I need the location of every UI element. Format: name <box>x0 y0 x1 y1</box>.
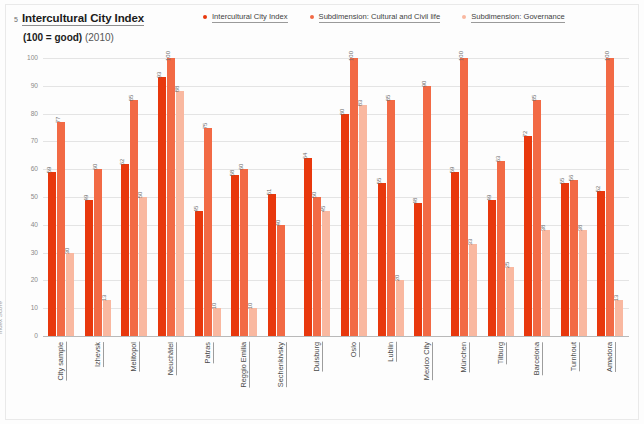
x-axis-label: Duisburg <box>312 342 323 372</box>
x-label-holder: Melitopol <box>129 342 130 420</box>
legend-item-cultural[interactable]: Subdimension: Cultural and Civil life <box>310 12 441 23</box>
x-axis-label: Barcelona <box>532 342 543 375</box>
x-axis-labels: City sampleIzhevskMelitopolNeuchâtelPatr… <box>43 340 629 420</box>
x-label-holder: Mexico City <box>422 342 423 420</box>
bar-value-label: 83 <box>357 100 363 107</box>
bar[interactable]: 50 <box>139 197 147 336</box>
bar[interactable]: 56 <box>570 180 578 336</box>
bar[interactable]: 40 <box>277 225 285 336</box>
bar[interactable]: 13 <box>615 300 623 336</box>
bar-value-label: 13 <box>613 295 619 302</box>
bar-value-label: 50 <box>137 192 143 199</box>
bar[interactable]: 38 <box>542 230 550 336</box>
legend-item-governance[interactable]: Subdimension: Governance <box>462 12 565 23</box>
x-label-holder: Turnhout <box>569 342 570 420</box>
bar[interactable]: 25 <box>506 267 514 337</box>
bar-value-label: 10 <box>211 303 217 310</box>
bar[interactable]: 38 <box>579 230 587 336</box>
bar[interactable]: 10 <box>213 308 221 336</box>
x-label-holder: Barcelona <box>532 342 533 420</box>
x-label-holder: City sample <box>56 342 57 420</box>
x-label-holder: Neuchâtel <box>166 342 167 420</box>
bar-value-label: 45 <box>320 206 326 213</box>
bar-value-label: 48 <box>412 197 418 204</box>
bar[interactable]: 83 <box>359 105 367 336</box>
bar[interactable]: 49 <box>488 200 496 336</box>
bar-group: 555638 <box>556 58 593 336</box>
chart-legend: Intercultural City Index Subdimension: C… <box>203 12 565 23</box>
bar[interactable]: 45 <box>195 211 203 336</box>
bar[interactable]: 93 <box>158 77 166 336</box>
bar[interactable]: 85 <box>533 100 541 336</box>
bar-group: 5910033 <box>446 58 483 336</box>
bar-value-label: 33 <box>467 239 473 246</box>
x-label-holder: Reggio Emilia <box>239 342 240 420</box>
bar[interactable]: 64 <box>304 158 312 336</box>
bar[interactable]: 72 <box>524 136 532 336</box>
bar[interactable]: 100 <box>460 58 468 336</box>
bar[interactable]: 85 <box>130 100 138 336</box>
bar[interactable]: 62 <box>121 164 129 336</box>
figure-number: 5 <box>14 16 18 23</box>
bar[interactable]: 13 <box>103 300 111 336</box>
bar-value-label: 93 <box>156 72 162 79</box>
bar-value-label: 38 <box>540 225 546 232</box>
bar-group: 4890 <box>409 58 446 336</box>
bar-value-label: 59 <box>449 167 455 174</box>
bar[interactable]: 33 <box>469 244 477 336</box>
bar-value-label: 100 <box>458 51 464 61</box>
bar-value-label: 88 <box>174 86 180 93</box>
legend-dot-icon <box>310 15 314 19</box>
bar[interactable]: 77 <box>57 122 65 336</box>
legend-item-index[interactable]: Intercultural City Index <box>203 12 288 23</box>
x-axis-label: Reggio Emilia <box>239 342 250 388</box>
y-axis-tick-label: 80 <box>11 110 38 117</box>
bar[interactable]: 63 <box>497 161 505 336</box>
bar[interactable]: 60 <box>240 169 248 336</box>
bar[interactable]: 90 <box>423 86 431 336</box>
bar[interactable]: 45 <box>322 211 330 336</box>
x-axis-label: Izhevsk <box>93 342 104 367</box>
x-axis-label: Oslo <box>349 342 360 357</box>
bar-group: 496325 <box>483 58 520 336</box>
bar-value-label: 100 <box>348 51 354 61</box>
bar-value-label: 55 <box>376 178 382 185</box>
bar[interactable]: 55 <box>561 183 569 336</box>
bar[interactable]: 60 <box>94 169 102 336</box>
bar[interactable]: 48 <box>414 203 422 336</box>
bar-value-label: 40 <box>275 219 281 226</box>
bar-value-label: 49 <box>83 194 89 201</box>
bar-group: 496013 <box>80 58 117 336</box>
y-axis-title: Index Score <box>0 301 3 334</box>
bar[interactable]: 59 <box>451 172 459 336</box>
bar[interactable]: 88 <box>176 91 184 336</box>
bar-value-label: 59 <box>46 167 52 174</box>
legend-dot-icon <box>462 15 466 19</box>
x-label-holder: Lublin <box>386 342 387 420</box>
bar[interactable]: 10 <box>249 308 257 336</box>
x-axis-label: Sechenkivsky <box>276 342 287 387</box>
bar[interactable]: 50 <box>313 197 321 336</box>
x-label-holder: Tilburg <box>496 342 497 420</box>
bar[interactable]: 59 <box>48 172 56 336</box>
bar[interactable]: 52 <box>597 191 605 336</box>
legend-dot-icon <box>203 15 207 19</box>
y-axis-tick-label: 40 <box>11 221 38 228</box>
bar[interactable]: 30 <box>66 253 74 336</box>
bar[interactable]: 58 <box>231 175 239 336</box>
x-axis-label: Melitopol <box>129 342 140 372</box>
bar[interactable]: 85 <box>387 100 395 336</box>
bar-value-label: 62 <box>119 158 125 165</box>
bar[interactable]: 51 <box>268 194 276 336</box>
bar[interactable]: 80 <box>341 114 349 336</box>
bar[interactable]: 100 <box>167 58 175 336</box>
bar[interactable]: 20 <box>396 280 404 336</box>
bar[interactable]: 49 <box>85 200 93 336</box>
x-axis-label: Amadora <box>605 342 616 372</box>
bar-group: 558520 <box>373 58 410 336</box>
bar-value-label: 30 <box>64 247 70 254</box>
x-axis-label: Tilburg <box>496 342 507 364</box>
bar[interactable]: 55 <box>378 183 386 336</box>
page-title: Intercultural City Index <box>22 12 144 26</box>
bar-group: 628550 <box>116 58 153 336</box>
